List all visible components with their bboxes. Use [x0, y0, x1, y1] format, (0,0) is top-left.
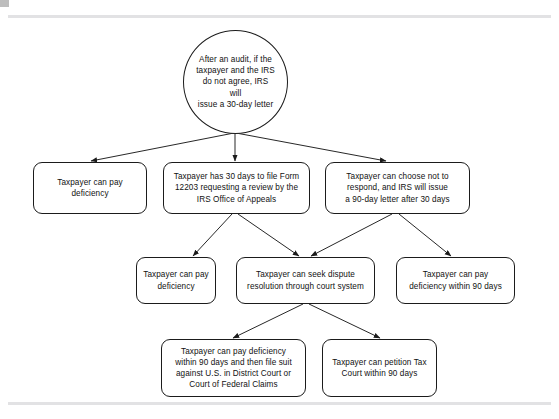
- page-corner-mark: [0, 0, 9, 7]
- node-court-system: Taxpayer can seek dispute resolution thr…: [236, 257, 375, 304]
- edge-no-respond-to-court-system: [311, 214, 392, 256]
- node-petition-tax-court-label: Taxpayer can petition Tax Court within 9…: [323, 357, 436, 379]
- node-petition-tax-court: Taxpayer can petition Tax Court within 9…: [322, 339, 437, 397]
- edge-start-to-no-respond-90-day: [236, 133, 386, 161]
- node-pay-deficiency-1-label: Taxpayer can pay deficiency: [34, 177, 146, 199]
- node-pay-within-90-days-label: Taxpayer can pay deficiency within 90 da…: [397, 269, 514, 291]
- node-pay-deficiency-2-label: Taxpayer can pay deficiency: [137, 269, 215, 291]
- node-pay-deficiency-2: Taxpayer can pay deficiency: [136, 257, 216, 304]
- node-pay-deficiency-1: Taxpayer can pay deficiency: [33, 162, 147, 214]
- edge-court-system-to-district-court-suit: [233, 304, 303, 338]
- edge-file-form-to-pay-deficiency-2: [193, 214, 232, 256]
- edge-no-respond-to-pay-within-90-days: [399, 214, 451, 256]
- node-start: After an audit, if the taxpayer and the …: [183, 30, 288, 134]
- node-no-respond-90-day: Taxpayer can choose not to respond, and …: [325, 162, 470, 214]
- top-divider-rule: [8, 15, 551, 18]
- node-district-court-suit-label: Taxpayer can pay deficiency within 90 da…: [162, 346, 305, 391]
- node-file-form-12203-label: Taxpayer has 30 days to file Form 12203 …: [164, 171, 309, 205]
- node-no-respond-90-day-label: Taxpayer can choose not to respond, and …: [326, 171, 469, 205]
- bottom-divider-rule: [8, 402, 551, 405]
- edge-start-to-pay-deficiency-1: [91, 133, 234, 161]
- node-pay-within-90-days: Taxpayer can pay deficiency within 90 da…: [396, 257, 515, 304]
- node-district-court-suit: Taxpayer can pay deficiency within 90 da…: [161, 339, 306, 397]
- edge-file-form-to-court-system: [238, 214, 299, 256]
- node-start-label: After an audit, if the taxpayer and the …: [184, 54, 287, 110]
- node-court-system-label: Taxpayer can seek dispute resolution thr…: [237, 269, 374, 291]
- node-file-form-12203: Taxpayer has 30 days to file Form 12203 …: [163, 162, 310, 214]
- edge-court-system-to-petition-tax-court: [309, 304, 380, 338]
- flowchart-canvas: After an audit, if the taxpayer and the …: [0, 0, 559, 419]
